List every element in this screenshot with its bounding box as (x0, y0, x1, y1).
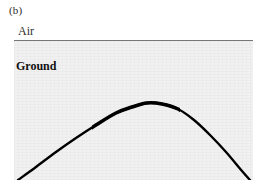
air-region-label: Air (18, 24, 34, 38)
panel-label: (b) (9, 3, 22, 17)
figure-panel-b: (b) Air Ground (0, 0, 260, 188)
ground-region-label: Ground (16, 59, 56, 73)
buried-interface-arc-path (18, 103, 250, 180)
